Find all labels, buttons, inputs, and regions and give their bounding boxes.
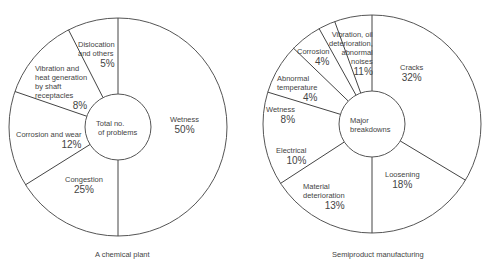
slice-name: Abnormal temperature <box>277 74 317 92</box>
slice-name: Vibration, oil deterioration, abnormal n… <box>329 30 373 66</box>
slice-name: Material deterioration <box>303 182 345 200</box>
slice-label: Dislocation and others5% <box>78 40 115 69</box>
slice-percent: 8% <box>35 100 87 111</box>
slice-label: Vibration and heat generation by shaft r… <box>35 64 87 111</box>
slice-percent: 25% <box>65 184 103 195</box>
slice-label: Corrosion and wear12% <box>16 130 81 150</box>
slice-percent: 4% <box>297 56 330 67</box>
slice-percent: 4% <box>277 92 317 103</box>
slice-percent: 13% <box>303 200 345 211</box>
slice-label: Cracks32% <box>400 63 423 83</box>
slice-label: Wetness50% <box>170 115 199 135</box>
slice-label: Electrical10% <box>276 146 306 166</box>
slice-name: Vibration and heat generation by shaft r… <box>35 64 87 100</box>
slice-name: Corrosion <box>297 47 330 56</box>
slice-label: Corrosion4% <box>297 47 330 67</box>
slice-name: Cracks <box>400 63 423 72</box>
slice-name: Wetness <box>266 105 295 114</box>
center-label: Major breakdowns <box>350 116 390 134</box>
slice-name: Dislocation and others <box>78 40 115 58</box>
slice-percent: 50% <box>170 124 199 135</box>
slice-percent: 11% <box>329 66 373 77</box>
slice-label: Congestion25% <box>65 175 103 195</box>
slice-percent: 12% <box>16 139 81 150</box>
slice-label: Abnormal temperature4% <box>277 74 317 103</box>
slice-name: Congestion <box>65 175 103 184</box>
slice-name: Wetness <box>170 115 199 124</box>
slice-percent: 8% <box>266 114 295 125</box>
slice-percent: 5% <box>78 58 115 69</box>
slice-name: Electrical <box>276 146 306 155</box>
center-label: Total no. of problems <box>96 119 137 137</box>
caption-semiproduct-manufacturing: Semiproduct manufacturing <box>332 250 424 259</box>
slice-label: Wetness8% <box>266 105 295 125</box>
slice-label: Loosening18% <box>385 170 420 190</box>
slice-name: Corrosion and wear <box>16 130 81 139</box>
slice-label: Vibration, oil deterioration, abnormal n… <box>329 30 373 77</box>
slice-percent: 18% <box>385 179 420 190</box>
slice-percent: 32% <box>400 72 423 83</box>
slice-name: Loosening <box>385 170 420 179</box>
slice-label: Material deterioration13% <box>303 182 345 211</box>
caption-chemical-plant: A chemical plant <box>95 250 150 259</box>
slice-percent: 10% <box>276 155 306 166</box>
